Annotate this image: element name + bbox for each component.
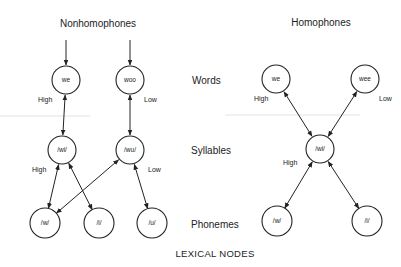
- strength-labels-layer: HighLowHighLowHighLowHigh: [32, 95, 393, 174]
- strength-label-high: High: [254, 95, 269, 103]
- node-label: /w/: [41, 219, 50, 226]
- edge-homophones-syl_wi-ph_i: [328, 162, 359, 209]
- edge-homophones-syl_wi-ph_w: [285, 162, 313, 208]
- lexical-nodes-diagram: Nonhomophones Homophones Words Syllables…: [0, 0, 401, 267]
- edge-nonhomophones-syl_wu-ph_u: [134, 164, 147, 208]
- node-label: /wi/: [315, 145, 325, 152]
- strength-label-high: High: [283, 159, 298, 167]
- node-homophones-ph_w: /w/: [262, 206, 292, 236]
- level-label-syllables: Syllables: [191, 145, 231, 156]
- node-label: /wu/: [124, 146, 136, 153]
- edge-homophones-syl_wi-we: [284, 92, 312, 137]
- node-label: we: [61, 76, 71, 83]
- node-label: /u/: [148, 219, 155, 226]
- node-nonhomophones-syl_wu: /wu/: [116, 136, 144, 164]
- node-label: /w/: [273, 217, 282, 224]
- node-label: /i/: [96, 219, 101, 226]
- strength-label-low: Low: [144, 96, 158, 103]
- edge-homophones-syl_wi-wee: [328, 92, 357, 137]
- edge-nonhomophones-we-syl_wi: [63, 95, 65, 135]
- node-homophones-wee: wee: [351, 65, 379, 93]
- node-homophones-syl_wi: /wi/: [306, 135, 334, 163]
- level-label-phonemes: Phonemes: [191, 219, 239, 230]
- node-label: /wi/: [57, 146, 67, 153]
- level-label-words: Words: [192, 75, 221, 86]
- panel-title-nonhomophones: Nonhomophones: [60, 18, 136, 29]
- node-nonhomophones-ph_u: /u/: [137, 208, 167, 238]
- node-label: /i/: [364, 217, 369, 224]
- strength-label-low: Low: [379, 95, 393, 102]
- node-label: woo: [123, 76, 136, 83]
- edge-nonhomophones-syl_wu-ph_w: [56, 160, 118, 213]
- edges-layer: [48, 40, 358, 213]
- node-label: wee: [358, 75, 371, 82]
- node-nonhomophones-woo: woo: [116, 66, 144, 94]
- strength-label-low: Low: [148, 166, 162, 173]
- node-nonhomophones-we: we: [52, 66, 80, 94]
- node-nonhomophones-ph_w: /w/: [30, 208, 60, 238]
- edge-nonhomophones-syl_wi-ph_i: [69, 163, 92, 209]
- strength-label-high: High: [38, 96, 53, 104]
- edge-nonhomophones-syl_wi-ph_w: [48, 165, 58, 209]
- panel-title-homophones: Homophones: [291, 17, 350, 28]
- node-nonhomophones-syl_wi: /wi/: [48, 136, 76, 164]
- node-label: we: [271, 75, 281, 82]
- strength-label-high: High: [32, 166, 47, 174]
- node-homophones-ph_i: /i/: [352, 206, 382, 236]
- footer-caption: LEXICAL NODES: [175, 248, 254, 259]
- node-homophones-we: we: [262, 65, 290, 93]
- node-nonhomophones-ph_i: /i/: [84, 208, 114, 238]
